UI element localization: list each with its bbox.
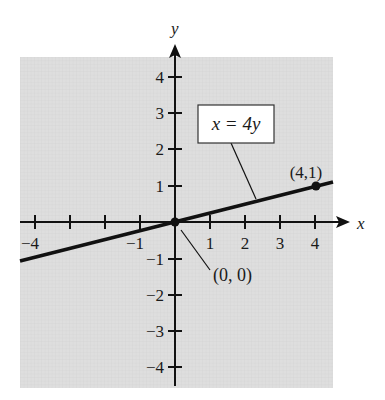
- x-tick-label: 1: [206, 234, 215, 253]
- x-tick-label: −4: [21, 234, 40, 253]
- y-tick-label: −3: [146, 322, 164, 341]
- y-tick-label: −1: [146, 250, 164, 269]
- y-tick-label: 4: [156, 68, 165, 87]
- x-axis-label: x: [356, 214, 365, 233]
- equation-label: x = 4y: [211, 113, 261, 134]
- y-axis-label: y: [169, 19, 179, 38]
- point-4-1-label: (4,1): [290, 163, 323, 182]
- x-tick-label: 4: [311, 234, 320, 253]
- point-origin: [171, 218, 180, 227]
- y-tick-label: −4: [146, 358, 165, 377]
- x-tick-label: 2: [241, 234, 250, 253]
- y-tick-label: −2: [146, 286, 164, 305]
- x-tick-label: 3: [276, 234, 285, 253]
- x-tick-label: −1: [126, 234, 144, 253]
- y-tick-label: 1: [156, 177, 165, 196]
- y-tick-label: 3: [156, 104, 165, 123]
- point-4-1: [312, 182, 321, 191]
- point-origin-label: (0, 0): [213, 265, 252, 286]
- y-tick-label: 2: [156, 140, 165, 159]
- graph-figure: x y −4 −1 1 2 3 4 4 3 2 1 −1 −2 −3 −4 x …: [0, 0, 385, 400]
